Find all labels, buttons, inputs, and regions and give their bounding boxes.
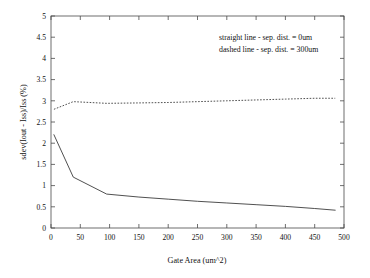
- x-tick-label: 0: [49, 233, 53, 242]
- annotation-line-dashed: dashed line - sep. dist. = 300um: [219, 45, 318, 54]
- x-tick-label: 100: [104, 233, 116, 242]
- y-tick-label: 0: [42, 224, 46, 233]
- x-tick-label: 300: [221, 233, 233, 242]
- y-axis-label: sdev(Iout - Iss)/Iss (%): [19, 84, 28, 160]
- y-tick-label: 4.5: [37, 33, 47, 42]
- y-tick-label: 0.5: [37, 203, 47, 212]
- chart-figure: 050100150200250300350400450500 00.511.52…: [0, 0, 370, 278]
- y-tick-label: 4: [42, 54, 46, 63]
- y-tick-label: 1.5: [37, 160, 47, 169]
- x-axis-tick-labels: 050100150200250300350400450500: [49, 233, 350, 242]
- series-line-dashed: [54, 98, 335, 109]
- line-chart: 050100150200250300350400450500 00.511.52…: [0, 0, 370, 278]
- x-tick-label: 50: [77, 233, 85, 242]
- x-tick-label: 150: [133, 233, 145, 242]
- annotation-block: straight line - sep. dist. = 0um dashed …: [219, 33, 318, 54]
- y-tick-label: 1: [42, 181, 46, 190]
- series-line-solid: [54, 135, 335, 210]
- x-tick-label: 200: [163, 233, 175, 242]
- x-tick-label: 500: [338, 233, 350, 242]
- y-tick-label: 3: [42, 97, 46, 106]
- y-tick-label: 2.5: [37, 118, 47, 127]
- x-tick-label: 450: [309, 233, 321, 242]
- x-axis-label: Gate Area (um^2): [168, 256, 227, 265]
- y-tick-label: 2: [42, 139, 46, 148]
- data-series-group: [54, 98, 335, 210]
- x-tick-label: 350: [250, 233, 262, 242]
- x-tick-label: 400: [280, 233, 292, 242]
- y-tick-label: 5: [42, 12, 46, 21]
- x-tick-label: 250: [192, 233, 204, 242]
- annotation-line-solid: straight line - sep. dist. = 0um: [219, 33, 312, 42]
- y-tick-label: 3.5: [37, 75, 47, 84]
- y-axis-tick-labels: 00.511.522.533.544.55: [37, 12, 47, 233]
